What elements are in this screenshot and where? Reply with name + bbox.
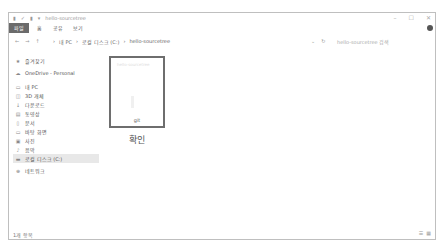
desktop-icon: ▭	[15, 129, 21, 135]
breadcrumb-separator: ›	[53, 38, 55, 45]
address-dropdown-icon[interactable]: ⌄	[311, 38, 315, 44]
view-toggles: ☰ ▦	[419, 230, 431, 236]
sidebar-item-label: 문서	[25, 119, 35, 126]
sidebar-item-label: 내 PC	[25, 83, 38, 90]
search-input[interactable]: hello-sourcetree 검색	[337, 38, 389, 45]
sidebar-item-label: 즐겨찾기	[25, 57, 45, 64]
sidebar-item-onedrive[interactable]: ☁OneDrive - Personal	[15, 70, 75, 76]
status-bar: 1개 항목 ☰ ▦	[9, 227, 435, 239]
sidebar-item-music[interactable]: ♪음악	[15, 146, 35, 153]
sidebar-item-label: 3D 개체	[25, 92, 44, 99]
up-button[interactable]: ↑	[35, 38, 39, 44]
file-list: hello-sourcetree git 확인	[101, 53, 435, 227]
forward-button[interactable]: →	[25, 38, 29, 44]
download-icon: ↓	[15, 102, 21, 108]
properties-icon[interactable]: ✓	[21, 15, 25, 21]
window-title: hello-sourcetree	[45, 15, 86, 21]
sidebar-item-label: 음악	[25, 146, 35, 153]
tab-home[interactable]: 홈	[37, 23, 42, 33]
file-name[interactable]: 확인	[109, 133, 165, 146]
sidebar-item-videos[interactable]: ▤동영상	[15, 110, 40, 117]
sidebar-item-pictures[interactable]: ▣사진	[15, 137, 35, 144]
close-button[interactable]: ✕	[426, 14, 431, 21]
breadcrumb-separator: ›	[123, 38, 125, 45]
thumbnail-decoration	[131, 96, 134, 108]
quick-access-icon[interactable]: ▮	[13, 15, 16, 21]
breadcrumb[interactable]: › 내 PC › 로컬 디스크 (C:) › hello-sourcetree	[53, 38, 170, 45]
thumbnail-title: hello-sourcetree	[117, 62, 150, 67]
drive-icon: ▬	[15, 156, 21, 162]
address-bar-row: ← → ↑ › 내 PC › 로컬 디스크 (C:) › hello-sourc…	[9, 35, 435, 47]
title-bar: ▮ ✓ ▮ ▾ hello-sourcetree – ☐ ✕	[9, 13, 435, 23]
sidebar-item-label: 사진	[25, 137, 35, 144]
star-icon: ★	[15, 58, 21, 64]
sidebar-item-this-pc[interactable]: ▭내 PC	[15, 83, 38, 90]
sidebar-item-network[interactable]: ⊕네트워크	[15, 167, 45, 174]
tab-share[interactable]: 공유	[53, 23, 63, 33]
details-view-icon[interactable]: ☰	[419, 230, 423, 236]
navigation-buttons: ← → ↑	[15, 38, 40, 44]
new-folder-icon[interactable]: ▮	[30, 15, 33, 21]
breadcrumb-local-disk[interactable]: 로컬 디스크 (C:)	[82, 38, 119, 45]
file-explorer-window: ▮ ✓ ▮ ▾ hello-sourcetree – ☐ ✕ 파일 홈 공유 보…	[8, 12, 436, 240]
tab-view[interactable]: 보기	[73, 23, 83, 33]
sidebar-item-desktop[interactable]: ▭바탕 화면	[15, 128, 47, 135]
network-icon: ⊕	[15, 168, 21, 174]
breadcrumb-this-pc[interactable]: 내 PC	[59, 38, 72, 45]
sidebar-item-label: 바탕 화면	[25, 128, 47, 135]
customize-dropdown-icon[interactable]: ▾	[38, 15, 41, 21]
tab-file[interactable]: 파일	[9, 23, 29, 33]
address-actions: ⌄ ↻	[311, 38, 325, 44]
sidebar-item-quick-access[interactable]: ★즐겨찾기	[15, 57, 45, 64]
help-icon[interactable]	[427, 25, 433, 31]
quick-access-toolbar: ▮ ✓ ▮ ▾ hello-sourcetree	[13, 15, 86, 21]
video-icon: ▤	[15, 111, 21, 117]
sidebar-item-local-disk[interactable]: ▬로컬 디스크 (C:)	[13, 154, 99, 163]
maximize-button[interactable]: ☐	[409, 14, 414, 21]
sidebar-item-label: 로컬 디스크 (C:)	[25, 155, 62, 162]
sidebar-item-documents[interactable]: ▯문서	[15, 119, 35, 126]
window-controls: – ☐ ✕	[394, 14, 431, 21]
back-button[interactable]: ←	[15, 38, 19, 44]
picture-icon: ▣	[15, 138, 21, 144]
large-icons-view-icon[interactable]: ▦	[426, 230, 431, 236]
cloud-icon: ☁	[15, 70, 21, 76]
sidebar-item-label: 다운로드	[25, 101, 45, 108]
breadcrumb-separator: ›	[76, 38, 78, 45]
sidebar-item-label: OneDrive - Personal	[25, 70, 75, 76]
ribbon: 파일 홈 공유 보기	[9, 23, 435, 33]
navigation-pane: ★즐겨찾기 ☁OneDrive - Personal ▭내 PC ◫3D 개체 …	[9, 53, 101, 227]
refresh-icon[interactable]: ↻	[321, 38, 325, 44]
thumbnail-label: git	[111, 117, 163, 123]
file-thumbnail[interactable]: hello-sourcetree git	[109, 56, 165, 128]
sidebar-item-downloads[interactable]: ↓다운로드	[15, 101, 45, 108]
sidebar-item-label: 네트워크	[25, 167, 45, 174]
breadcrumb-current-folder[interactable]: hello-sourcetree	[129, 38, 170, 45]
sidebar-item-3d-objects[interactable]: ◫3D 개체	[15, 92, 44, 99]
document-icon: ▯	[15, 120, 21, 126]
computer-icon: ▭	[15, 84, 21, 90]
sidebar-item-label: 동영상	[25, 110, 40, 117]
cube-icon: ◫	[15, 93, 21, 99]
item-count: 1개 항목	[13, 231, 33, 238]
minimize-button[interactable]: –	[394, 14, 397, 21]
music-icon: ♪	[15, 147, 21, 153]
